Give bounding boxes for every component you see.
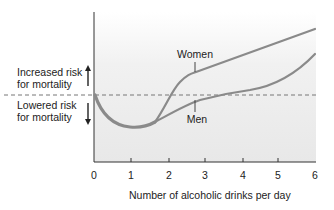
x-tick-0: 0 [91, 169, 97, 181]
x-tick-6: 6 [312, 169, 318, 181]
x-tick-5: 5 [275, 169, 281, 181]
men-series-label: Men [187, 113, 207, 125]
lowered-risk-label: Lowered risk for mortality [17, 99, 77, 123]
increased-risk-line1: Increased risk [17, 66, 82, 78]
x-axis-title: Number of alcoholic drinks per day [129, 189, 291, 201]
increased-risk-label: Increased risk for mortality [17, 66, 82, 90]
x-tick-3: 3 [202, 169, 208, 181]
women-series-label: Women [177, 48, 213, 60]
plot-area [94, 12, 316, 162]
down-arrow-icon [85, 103, 91, 125]
up-arrow-icon [85, 65, 91, 86]
increased-risk-line2: for mortality [17, 78, 82, 90]
x-tick-1: 1 [128, 169, 134, 181]
x-tick-2: 2 [166, 169, 172, 181]
x-tick-4: 4 [240, 169, 246, 181]
lowered-risk-line2: for mortality [17, 111, 77, 123]
lowered-risk-line1: Lowered risk [17, 99, 77, 111]
